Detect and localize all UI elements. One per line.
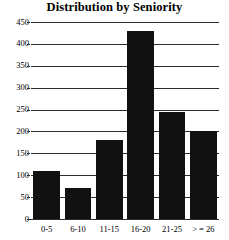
x-axis: 0-56-1011-1516-2021-25> = 26 <box>31 224 219 238</box>
gridline <box>31 110 219 111</box>
y-axis-tick-label: 0 <box>3 215 29 224</box>
x-axis-line <box>28 219 219 220</box>
y-axis-tick-label: 200 <box>3 127 29 136</box>
y-axis-tick-mark <box>27 131 30 132</box>
chart-title: Distribution by Seniority <box>0 0 229 14</box>
gridline <box>31 44 219 45</box>
bar <box>33 171 60 219</box>
bar <box>190 131 217 219</box>
y-axis-tick-label: 300 <box>3 83 29 92</box>
bar <box>159 112 186 219</box>
bar-chart: Distribution by Seniority 05010015020025… <box>0 0 229 240</box>
plot-area <box>31 22 219 219</box>
bar <box>65 188 92 219</box>
y-axis-tick-mark <box>27 197 30 198</box>
y-axis: 050100150200250300350400450 <box>0 0 29 240</box>
y-axis-tick-mark <box>27 110 30 111</box>
x-axis-tick-label: > = 26 <box>188 224 219 234</box>
y-axis-tick-label: 400 <box>3 39 29 48</box>
y-axis-tick-mark <box>27 88 30 89</box>
y-axis-tick-label: 150 <box>3 149 29 158</box>
y-axis-tick-label: 250 <box>3 105 29 114</box>
x-axis-tick-label: 16-20 <box>125 224 156 234</box>
bar <box>96 140 123 219</box>
bar <box>127 31 154 219</box>
gridline <box>31 22 219 23</box>
y-axis-tick-label: 100 <box>3 171 29 180</box>
x-axis-tick-label: 6-10 <box>62 224 93 234</box>
y-axis-tick-label: 450 <box>3 18 29 27</box>
x-axis-tick-label: 11-15 <box>94 224 125 234</box>
y-axis-tick-label: 350 <box>3 61 29 70</box>
y-axis-tick-mark <box>27 175 30 176</box>
x-axis-tick-label: 0-5 <box>31 224 62 234</box>
y-axis-tick-mark <box>27 44 30 45</box>
y-axis-tick-mark <box>27 66 30 67</box>
y-axis-tick-label: 50 <box>3 193 29 202</box>
y-axis-tick-mark <box>27 22 30 23</box>
gridline <box>31 88 219 89</box>
y-axis-tick-mark <box>27 153 30 154</box>
x-axis-tick-label: 21-25 <box>156 224 187 234</box>
gridline <box>31 66 219 67</box>
